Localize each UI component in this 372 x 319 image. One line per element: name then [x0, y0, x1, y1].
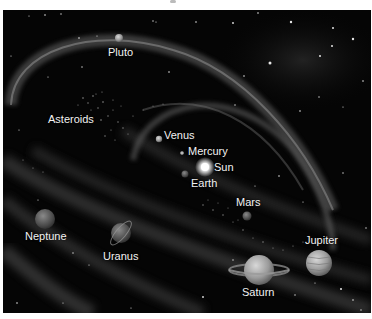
label-asteroids: Asteroids — [48, 113, 94, 125]
orbit-band — [123, 130, 371, 240]
inner-orbit — [133, 106, 333, 250]
solar-system-illustration: Pluto Asteroids Venus Mercury Sun Earth … — [3, 10, 371, 313]
mercury — [180, 151, 184, 155]
label-neptune: Neptune — [25, 230, 67, 242]
sun — [201, 163, 209, 171]
mars — [243, 212, 252, 221]
jupiter — [306, 250, 332, 276]
label-sun: Sun — [214, 161, 234, 173]
space-scene — [3, 10, 371, 313]
label-uranus: Uranus — [103, 250, 138, 262]
label-mars: Mars — [236, 196, 260, 208]
label-pluto: Pluto — [108, 46, 133, 58]
neptune — [35, 209, 55, 229]
pluto — [115, 34, 123, 42]
label-earth: Earth — [191, 177, 217, 189]
saturn — [244, 255, 274, 285]
venus — [156, 136, 162, 142]
top-mark — [170, 0, 176, 3]
label-saturn: Saturn — [242, 286, 274, 298]
label-venus: Venus — [164, 129, 195, 141]
nebula-haze — [213, 10, 371, 115]
label-mercury: Mercury — [188, 145, 228, 157]
label-jupiter: Jupiter — [305, 234, 338, 246]
earth — [182, 171, 189, 178]
